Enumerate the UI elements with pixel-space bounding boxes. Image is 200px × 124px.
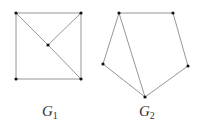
edge-t-r <box>103 64 145 97</box>
vertex-s <box>186 64 189 67</box>
graph-g2-label: G2 <box>139 103 155 121</box>
graph-g1 <box>14 11 82 80</box>
vertex-t <box>143 95 146 98</box>
edge-b-c <box>48 13 81 45</box>
vertex-p <box>117 11 120 14</box>
vertex-e <box>79 77 82 80</box>
edge-p-t <box>119 13 145 97</box>
edge-a-c <box>16 13 48 45</box>
graph-g1-label: G1 <box>42 103 58 121</box>
diagram-canvas: G1 G2 <box>0 0 200 124</box>
vertex-a <box>14 11 17 14</box>
vertex-r <box>101 62 104 65</box>
edge-s-t <box>145 66 188 97</box>
vertex-d <box>14 77 17 80</box>
graph-g2 <box>101 11 189 98</box>
edge-r-p <box>103 13 119 64</box>
vertex-q <box>171 11 174 14</box>
vertex-b <box>79 11 82 14</box>
edge-c-e <box>48 45 81 79</box>
edge-q-s <box>173 13 188 66</box>
vertex-c <box>46 43 49 46</box>
